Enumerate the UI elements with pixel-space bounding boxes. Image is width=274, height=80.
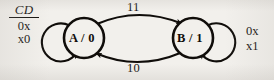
state-b-label: B / 1 — [177, 31, 203, 46]
self-loop-a-label-line-1: 0x — [8, 20, 40, 33]
transition-a-to-b — [96, 15, 182, 25]
input-label-numerator: CD — [8, 3, 40, 16]
self-loop-a-label-line-2: x0 — [8, 33, 40, 46]
self-loop-b-labels: 0x x1 — [246, 24, 259, 54]
self-loop-b-label-line-1: 0x — [246, 24, 259, 39]
transition-a-to-b-label: 11 — [127, 1, 139, 14]
state-a-label: A / 0 — [69, 31, 95, 46]
transition-b-to-a-label: 10 — [127, 62, 140, 75]
input-label-cd: CD 0x x0 — [8, 3, 40, 46]
self-loop-b-label-line-2: x1 — [246, 39, 259, 54]
transition-a-to-b-path — [96, 15, 182, 25]
state-diagram-figure: A / 0 B / 1 CD 0x x0 0x x1 11 10 — [0, 0, 274, 80]
